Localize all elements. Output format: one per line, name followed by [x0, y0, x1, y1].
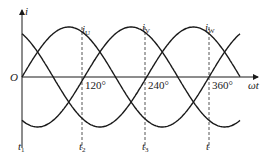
- origin-label: O: [10, 72, 18, 83]
- y-axis-label: i: [25, 6, 28, 17]
- time-label-t1: t1: [18, 141, 25, 154]
- three-phase-waveform-diagram: i O ωt 120° 240° 360° iU iV iW t1 t2 t3 …: [0, 0, 274, 159]
- time-label-t2: t2: [79, 141, 86, 154]
- curve-label-iu: iU: [82, 24, 90, 37]
- x-axis-label: ωt: [248, 80, 259, 91]
- curve-label-iw: iW: [205, 22, 215, 35]
- tick-label-120: 120°: [85, 80, 106, 91]
- time-label-t: t: [206, 141, 209, 154]
- tick-label-240: 240°: [148, 80, 169, 91]
- time-label-t3: t3: [142, 141, 149, 154]
- curve-label-iv: iV: [142, 22, 150, 35]
- tick-label-360: 360°: [212, 80, 233, 91]
